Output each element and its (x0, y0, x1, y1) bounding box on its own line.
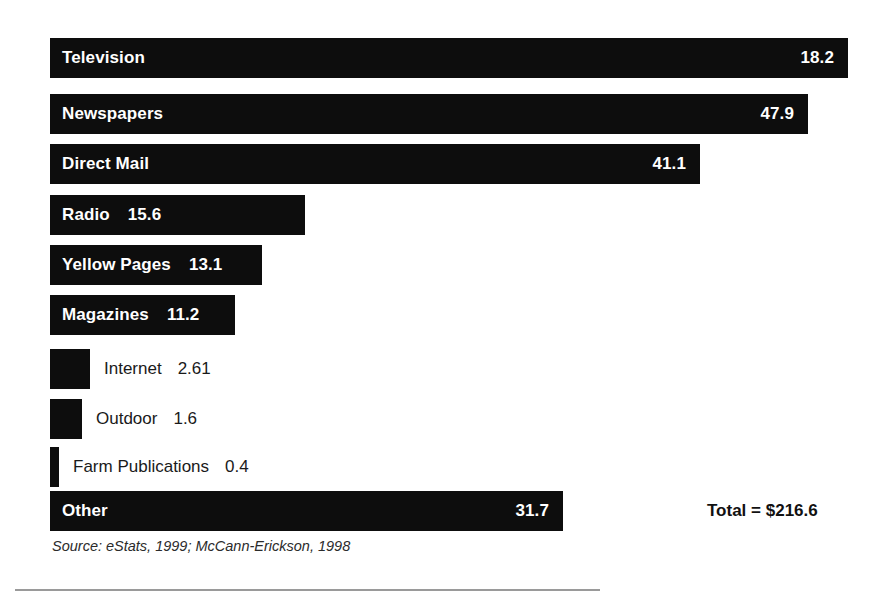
bar-rect (50, 195, 305, 235)
bar-rect (50, 38, 848, 78)
bar-label-group: Internet2.61 (104, 349, 211, 389)
source-note: Source: eStats, 1999; McCann-Erickson, 1… (52, 538, 350, 554)
bar-value-label: 2.61 (178, 359, 211, 379)
total-annotation: Total = $216.6 (707, 491, 818, 531)
bar-value-label: 1.6 (173, 409, 197, 429)
bar-row: Internet2.61 (0, 349, 890, 389)
bar-row: Newspapers47.9 (0, 94, 890, 134)
bar-row: Radio15.6 (0, 195, 890, 235)
bar-rect (50, 349, 90, 389)
bar-value-label: 0.4 (225, 457, 249, 477)
bar-rect (50, 447, 59, 487)
bar-rect (50, 94, 808, 134)
bar-label-group: Outdoor1.6 (96, 399, 197, 439)
bottom-rule-divider (15, 589, 600, 591)
bar-rect (50, 245, 262, 285)
bar-category-label: Farm Publications (73, 457, 209, 477)
bar-rect (50, 491, 563, 531)
bar-rect (50, 399, 82, 439)
bar-row: Yellow Pages13.1 (0, 245, 890, 285)
bar-row: Direct Mail41.1 (0, 144, 890, 184)
bar-rect (50, 144, 700, 184)
bar-category-label: Internet (104, 359, 162, 379)
bar-rect (50, 295, 235, 335)
bar-row: Farm Publications0.4 (0, 447, 890, 487)
bar-row: Magazines11.2 (0, 295, 890, 335)
bar-row: Television18.2 (0, 38, 890, 78)
bar-category-label: Outdoor (96, 409, 157, 429)
bar-label-group: Farm Publications0.4 (73, 447, 249, 487)
bar-row: Outdoor1.6 (0, 399, 890, 439)
advertising-spending-bar-chart: Television18.2Newspapers47.9Direct Mail4… (0, 0, 890, 601)
